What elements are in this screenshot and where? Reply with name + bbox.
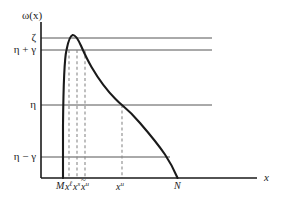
x-tick-label-N: N: [174, 181, 181, 191]
x-tick-label-x-tilde-u: ~xu: [81, 181, 89, 192]
x-tick-base-M: M: [56, 180, 64, 191]
x-tick-label-x-u: xu: [116, 181, 124, 192]
y-tick-label-eta-minus-gamma: η − γ: [0, 151, 36, 162]
x-tick-sup-x-ell: ℓ: [69, 180, 72, 188]
x-tick-label-x-s: xs: [73, 181, 80, 192]
gridlines: [41, 38, 212, 157]
figure-canvas: ω(x) ζ η + γ η η − γ x M xℓ xs ~xu xu N: [0, 0, 281, 199]
x-tick-sup-x-s: s: [77, 180, 80, 188]
x-tick-label-M: M: [56, 181, 64, 191]
x-axis-label: x: [264, 172, 269, 183]
y-tick-label-eta: η: [0, 99, 36, 110]
plot-svg: [0, 0, 281, 199]
dashed-markers: [69, 50, 122, 178]
x-tick-base-N: N: [174, 180, 181, 191]
x-tick-label-x-ell: xℓ: [65, 181, 72, 192]
x-tick-sup-x-u: u: [120, 180, 124, 188]
y-axis-label: ω(x): [22, 10, 42, 21]
y-tick-label-eta-plus-gamma: η + γ: [0, 44, 36, 55]
x-tick-base-x-tilde-u-wrap: ~x: [81, 182, 85, 192]
y-tick-label-zeta: ζ: [0, 32, 36, 43]
tilde-accent-icon: ~: [81, 176, 84, 185]
